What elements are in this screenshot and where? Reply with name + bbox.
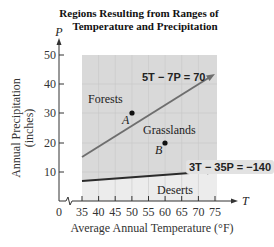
x-axis-arrow-icon [231,199,238,204]
point-a-label: A [121,113,130,127]
x-tick-0: 0 [56,205,62,219]
x-tick-35: 35 [76,205,88,219]
point-b-label: B [155,143,163,157]
point-b [162,140,167,145]
y-axis-var: P [54,25,63,39]
x-tick-45: 45 [109,205,121,219]
x-axis-label: Average Annual Temperature (°F) [70,221,233,235]
region-label-forests: Forests [88,92,123,106]
x-tick-60: 60 [159,205,171,219]
equation-label-1: 5T − 7P = 70 [142,71,205,83]
y-axis-label: Annual Precipitation (inches) [9,78,36,178]
y-tick-10: 10 [44,165,56,179]
chart: Regions Resulting from Ranges of Tempera… [0,0,274,247]
x-axis-var: T [242,194,250,208]
y-tick-50: 50 [44,48,56,62]
equation-label-2: 3T − 35P = −140 [189,161,271,173]
chart-title-line-2: Temperature and Precipitation [72,20,217,32]
y-tick-40: 40 [44,77,56,91]
x-tick-55: 55 [143,205,155,219]
x-tick-75: 75 [209,205,221,219]
region-label-grasslands: Grasslands [143,123,196,137]
x-tick-50: 50 [126,205,138,219]
region-label-deserts: Deserts [157,183,193,197]
y-axis-label-line-1: Annual Precipitation [9,78,23,178]
y-tick-30: 30 [44,106,56,120]
y-ticks [59,55,64,172]
x-tick-65: 65 [176,205,188,219]
y-axis-arrow-icon [57,38,62,45]
y-tick-20: 20 [44,136,56,150]
y-axis-label-line-2: (inches) [22,109,36,148]
point-a [129,110,134,115]
chart-title-line-1: Regions Resulting from Ranges of [59,7,219,19]
x-tick-40: 40 [93,205,105,219]
x-tick-70: 70 [192,205,204,219]
